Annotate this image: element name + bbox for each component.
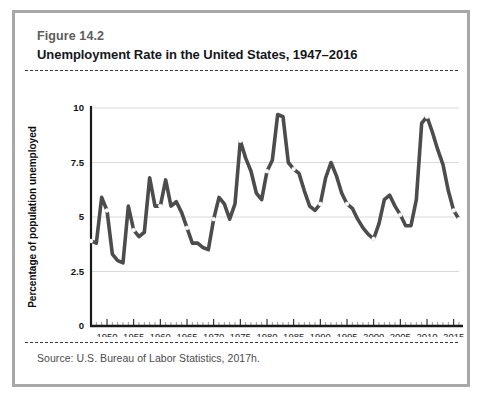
y-tick-label: 0 (79, 320, 84, 331)
y-axis-title-text: Percentage of population unemployed (27, 126, 38, 308)
data-point-marker (212, 217, 216, 221)
x-axis-tick-labels: 1950195519601965197019751980198519901995… (96, 331, 464, 337)
x-tick-label: 1960 (150, 331, 171, 337)
data-point-marker (457, 217, 461, 221)
data-point-marker (158, 204, 162, 208)
data-point-marker (452, 209, 456, 213)
data-point-marker (185, 226, 189, 230)
y-axis-tick-labels: 02.557.510 (71, 102, 85, 331)
data-point-marker (318, 202, 322, 206)
unemployment-line-chart: 02.557.510 19501955196019651970197519801… (15, 75, 467, 337)
x-tick-label: 2015 (443, 331, 464, 337)
x-tick-label: 1975 (230, 331, 251, 337)
data-point-marker (292, 167, 296, 171)
x-axis-ticks (91, 319, 459, 325)
data-point-marker (372, 237, 376, 241)
x-tick-label: 1950 (96, 331, 117, 337)
data-point-marker (265, 169, 269, 173)
x-tick-label: 1955 (123, 331, 144, 337)
x-tick-label: 2000 (363, 331, 384, 337)
figure-inner: Figure 14.2 Unemployment Rate in the Uni… (15, 13, 467, 384)
divider-top (25, 70, 458, 71)
data-point-marker (398, 213, 402, 217)
x-tick-label: 2005 (390, 331, 411, 337)
y-tick-label: 7.5 (71, 157, 85, 168)
x-tick-label: 1965 (176, 331, 197, 337)
figure-card: Figure 14.2 Unemployment Rate in the Uni… (12, 10, 470, 387)
source-note: Source: U.S. Bureau of Labor Statistics,… (37, 352, 260, 364)
data-series-line (91, 115, 459, 263)
figure-number: Figure 14.2 (37, 29, 104, 43)
data-point-marker (345, 202, 349, 206)
x-tick-label: 1985 (283, 331, 304, 337)
data-point-marker (89, 239, 93, 243)
figure-title: Unemployment Rate in the United States, … (37, 47, 358, 62)
y-tick-label: 10 (73, 102, 84, 113)
y-axis-title: Percentage of population unemployed (27, 126, 38, 308)
x-tick-label: 1995 (336, 331, 357, 337)
data-point-marker (425, 115, 429, 119)
series-unemployment-rate (91, 115, 459, 263)
y-tick-label: 5 (79, 211, 85, 222)
y-tick-label: 2.5 (71, 266, 85, 277)
x-tick-label: 1990 (310, 331, 331, 337)
data-point-marker (238, 139, 242, 143)
data-point-marker (132, 228, 136, 232)
x-tick-label: 1980 (256, 331, 277, 337)
x-tick-label: 2010 (416, 331, 437, 337)
data-point-marker (105, 209, 109, 213)
divider-bottom (25, 342, 458, 343)
x-tick-label: 1970 (203, 331, 224, 337)
chart-plot-area: 02.557.510 19501955196019651970197519801… (15, 75, 467, 337)
